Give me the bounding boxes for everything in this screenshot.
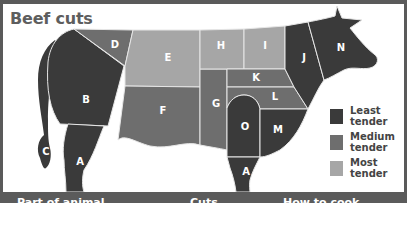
label-h: H [217, 40, 225, 51]
label-m: M [273, 124, 283, 135]
label-e: E [165, 52, 172, 63]
label-b: B [82, 94, 90, 105]
label-j: J [301, 52, 306, 63]
legend-item-medium: Medium tender [330, 131, 407, 157]
label-g: G [212, 98, 220, 109]
label-d: D [111, 39, 119, 50]
label-i: I [263, 40, 267, 51]
table-header-bar: Part of animal Cuts How to cook [0, 192, 407, 203]
legend-label-medium: Medium tender [350, 131, 395, 153]
legend-label-least: Least tender [350, 105, 388, 127]
table-header-part: Part of animal [17, 196, 105, 203]
label-n: N [337, 42, 345, 53]
cut-f [118, 86, 200, 147]
label-k: K [252, 72, 261, 83]
label-a-front: A [242, 166, 250, 177]
legend-swatch-most [330, 161, 343, 176]
table-header-cook: How to cook [283, 196, 359, 203]
legend-label-most: Most tender [350, 157, 388, 179]
cut-g [200, 69, 227, 150]
label-a-hind: A [76, 156, 84, 167]
label-l: L [272, 91, 279, 102]
label-c: C [42, 146, 49, 157]
cut-k [227, 69, 294, 87]
legend-swatch-least [330, 109, 343, 124]
label-o: O [241, 121, 250, 132]
label-f: F [160, 105, 167, 116]
legend-item-least: Least tender [330, 105, 407, 131]
table-header-cuts: Cuts [190, 196, 218, 203]
cut-e [125, 30, 200, 87]
legend-swatch-medium [330, 135, 343, 150]
legend-item-most: Most tender [330, 157, 407, 183]
cut-m [260, 109, 308, 157]
